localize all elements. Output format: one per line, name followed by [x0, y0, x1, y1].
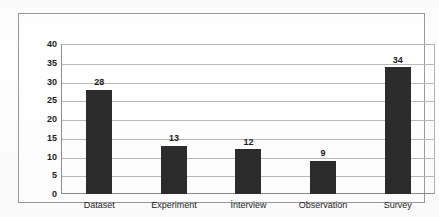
y-tick-10: 10: [33, 152, 57, 161]
bar-interview[interactable]: [235, 149, 261, 194]
y-tick-35: 35: [33, 58, 57, 67]
y-tick-20: 20: [33, 115, 57, 124]
bar-survey[interactable]: [385, 67, 411, 194]
bar-observation[interactable]: [310, 161, 336, 195]
y-tick-15: 15: [33, 133, 57, 142]
x-tick-dataset: Dataset: [84, 198, 115, 212]
y-tick-40: 40: [33, 40, 57, 49]
y-tick-0: 0: [33, 190, 57, 199]
bars-layer: 28 13 12 9 34: [62, 45, 435, 194]
chart-outer-frame: 40 35 30 25 20 15 10 5 0 28: [18, 13, 425, 203]
y-tick-30: 30: [33, 77, 57, 86]
bar-experiment[interactable]: [161, 146, 187, 194]
bar-value-experiment: 13: [169, 134, 179, 143]
bar-slot-dataset: 28: [62, 45, 137, 194]
bar-slot-interview: 12: [211, 45, 286, 194]
x-axis-tick-labels: Dataset Experiment İnterview Observation…: [62, 198, 435, 214]
bar-slot-observation: 9: [286, 45, 361, 194]
x-tick-interview: İnterview: [230, 198, 266, 212]
bar-value-interview: 12: [243, 138, 253, 147]
x-tick-survey: Survey: [384, 198, 412, 212]
bar-value-survey: 34: [393, 56, 403, 65]
bar-chart-figure: 40 35 30 25 20 15 10 5 0 28: [0, 0, 439, 217]
bar-dataset[interactable]: [86, 90, 112, 194]
bar-slot-survey: 34: [360, 45, 435, 194]
x-tick-experiment: Experiment: [151, 198, 197, 212]
y-axis-tick-labels: 40 35 30 25 20 15 10 5 0: [29, 44, 57, 194]
y-tick-25: 25: [33, 96, 57, 105]
bar-value-dataset: 28: [94, 78, 104, 87]
bar-slot-experiment: 13: [137, 45, 212, 194]
y-tick-5: 5: [33, 171, 57, 180]
x-tick-observation: Observation: [299, 198, 348, 212]
bar-value-observation: 9: [321, 149, 326, 158]
